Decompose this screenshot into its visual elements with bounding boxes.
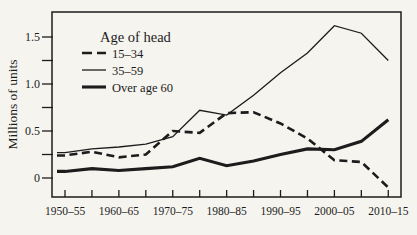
- x-tick-label: 1970–75: [153, 205, 194, 217]
- y-tick-label: 1.5: [25, 30, 40, 44]
- x-tick-label: 2000–05: [314, 205, 355, 217]
- y-tick-label: 1.0: [25, 77, 40, 91]
- y-tick-label: 0.5: [25, 124, 40, 138]
- line-chart-canvas: 00.51.01.51950–551960–651970–751980–8519…: [0, 0, 417, 235]
- x-tick-label: 1960–65: [99, 205, 140, 217]
- legend-label: 35–59: [112, 64, 143, 78]
- series-line-over-age-60: [57, 120, 388, 172]
- y-tick-label: 0: [34, 171, 40, 185]
- x-tick-label: 1990–95: [260, 205, 301, 217]
- legend-title: Age of head: [100, 29, 172, 45]
- legend-label: Over age 60: [112, 81, 173, 95]
- chart-figure: Millions of units 00.51.01.51950–551960–…: [0, 0, 417, 235]
- x-tick-label: 1980–85: [207, 205, 248, 217]
- x-tick-label: 2010–15: [368, 205, 409, 217]
- x-tick-label: 1950–55: [45, 205, 86, 217]
- legend-label: 15–34: [112, 47, 144, 61]
